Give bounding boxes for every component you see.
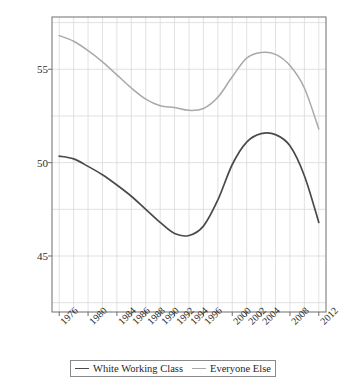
legend-entry-white-working-class: White Working Class — [75, 363, 183, 374]
legend-label-series-1: Everyone Else — [210, 363, 271, 374]
x-tick-label: 2012 — [318, 305, 340, 327]
legend-label-series-0: White Working Class — [93, 363, 183, 374]
x-tick-label: 1976 — [58, 305, 80, 327]
legend-swatch-series-0 — [75, 368, 89, 369]
x-axis-tick-labels: 1976198019841986198819901992199419962000… — [0, 0, 344, 389]
x-tick-label: 2008 — [289, 305, 311, 327]
chart-legend: White Working Class Everyone Else — [70, 360, 276, 377]
x-tick-label: 1980 — [87, 305, 109, 327]
chart-figure: Feeling Thermometer Score 455055 1976198… — [0, 0, 344, 389]
legend-swatch-series-1 — [192, 368, 206, 369]
legend-entry-everyone-else: Everyone Else — [192, 363, 271, 374]
